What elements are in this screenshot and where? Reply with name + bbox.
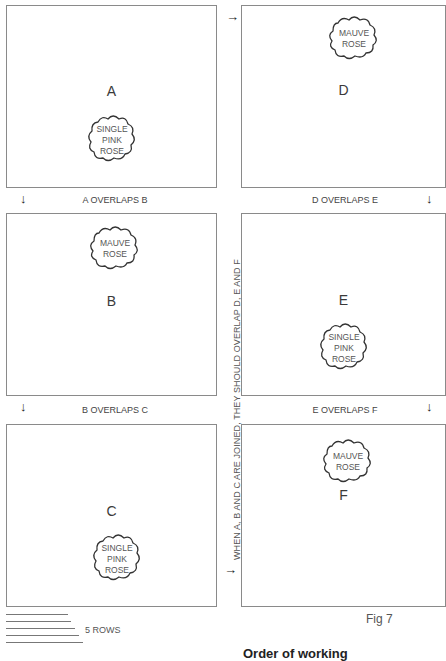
arrow-down-icon: ↓ — [20, 400, 27, 413]
order-heading: Order of working — [243, 646, 348, 661]
panel-letter: D — [242, 82, 445, 98]
panel-a: A SINGLE PINK ROSE — [6, 5, 217, 188]
panel-b: MAUVE ROSE B — [6, 213, 217, 396]
rose-line: PINK — [107, 554, 127, 565]
arrow-right-icon: → — [226, 10, 239, 23]
rose-line: MAUVE — [333, 451, 363, 462]
arrow-right-icon: → — [224, 563, 237, 576]
rows-lines-icon — [6, 614, 83, 649]
rose-line: MAUVE — [339, 28, 369, 39]
panel-letter: A — [7, 83, 216, 99]
rose-line: ROSE — [100, 146, 124, 157]
joining-note: WHEN A, B AND C ARE JOINED, THEY SHOULD … — [232, 259, 242, 560]
overlap-label-de: D OVERLAPS E — [290, 195, 400, 205]
rose-line: ROSE — [105, 565, 129, 576]
panel-f: MAUVE ROSE F — [241, 424, 446, 607]
overlap-label-ab: A OVERLAPS B — [60, 195, 170, 205]
panel-letter: B — [7, 293, 216, 309]
overlap-label-ef: E OVERLAPS F — [290, 405, 400, 415]
rose-cloud: SINGLE PINK ROSE — [316, 320, 372, 376]
rose-line: ROSE — [342, 39, 366, 50]
panel-letter: C — [7, 503, 216, 519]
figure-label: Fig 7 — [366, 612, 393, 626]
overlap-label-bc: B OVERLAPS C — [60, 405, 170, 415]
panel-c: C SINGLE PINK ROSE — [6, 424, 217, 607]
arrow-down-icon: ↓ — [426, 400, 433, 413]
rose-cloud: MAUVE ROSE — [87, 224, 143, 274]
rose-cloud: MAUVE ROSE — [326, 14, 382, 64]
rose-line: ROSE — [332, 354, 356, 365]
panel-d: MAUVE ROSE D — [241, 5, 446, 188]
arrow-down-icon: ↓ — [426, 192, 433, 205]
rose-line: ROSE — [103, 249, 127, 260]
panel-letter: F — [242, 487, 445, 503]
rose-line: SINGLE — [96, 124, 127, 135]
rose-line: PINK — [102, 135, 122, 146]
rose-cloud: SINGLE PINK ROSE — [84, 112, 140, 168]
rose-line: PINK — [334, 343, 354, 354]
arrow-down-icon: ↓ — [20, 192, 27, 205]
rose-cloud: MAUVE ROSE — [320, 437, 376, 487]
rose-line: SINGLE — [328, 332, 359, 343]
rose-line: ROSE — [336, 462, 360, 473]
rose-cloud: SINGLE PINK ROSE — [89, 531, 145, 587]
panel-e: E SINGLE PINK ROSE — [241, 213, 446, 396]
panel-letter: E — [242, 292, 445, 308]
rows-label: 5 ROWS — [85, 625, 121, 635]
rose-line: SINGLE — [101, 543, 132, 554]
rose-line: MAUVE — [100, 238, 130, 249]
